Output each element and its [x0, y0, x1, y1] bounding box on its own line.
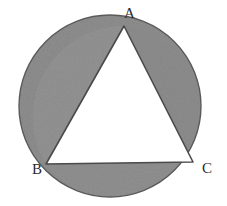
- vertex-label-a: A: [124, 6, 135, 21]
- vertex-label-c: C: [202, 161, 212, 176]
- geometry-figure: A B C: [0, 0, 227, 206]
- vertex-label-b: B: [32, 162, 42, 177]
